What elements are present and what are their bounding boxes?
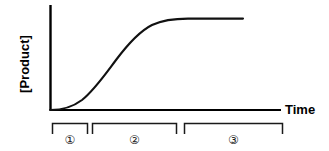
- product-curve: [51, 19, 244, 110]
- phase-1-label: ①: [65, 133, 76, 147]
- y-axis-label: [Product]: [17, 35, 32, 93]
- phase-3-label: ③: [228, 133, 239, 147]
- product-vs-time-chart: [Product] Time ① ② ③: [0, 0, 329, 151]
- chart-canvas: [Product] Time ① ② ③: [0, 0, 329, 151]
- phase-2-label: ②: [129, 133, 140, 147]
- x-axis-label: Time: [285, 102, 315, 117]
